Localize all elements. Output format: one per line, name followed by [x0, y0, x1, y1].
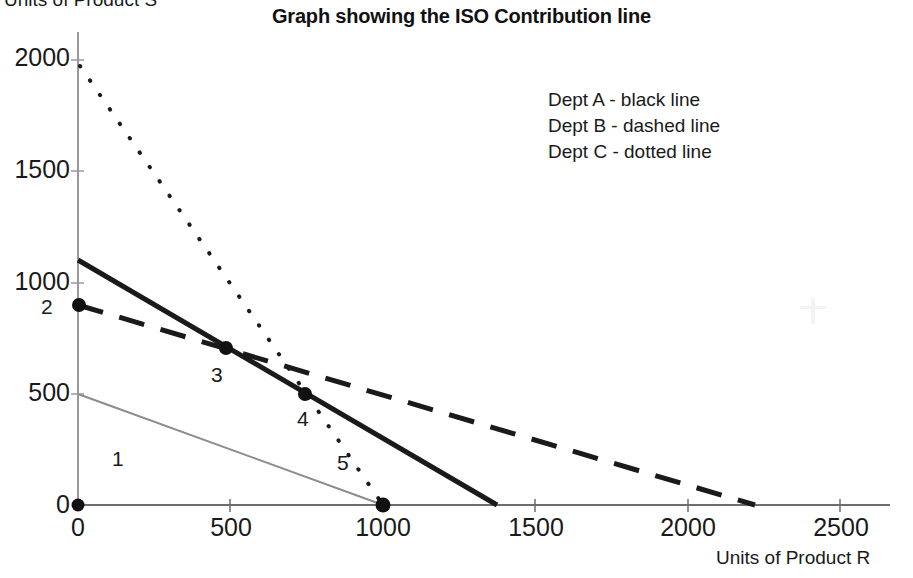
dept-a-solid-line	[78, 260, 497, 505]
plot-area	[0, 0, 913, 578]
vertex-dot-2	[72, 298, 86, 312]
vertex-dot-origin	[72, 499, 85, 512]
vertex-dot-5-xaxis	[376, 498, 391, 513]
chart-canvas: Units of Product S Graph showing the ISO…	[0, 0, 913, 578]
vertex-dot-3	[219, 341, 233, 355]
vertex-dot-4	[298, 387, 312, 401]
dept-b-dashed-line	[78, 305, 755, 505]
